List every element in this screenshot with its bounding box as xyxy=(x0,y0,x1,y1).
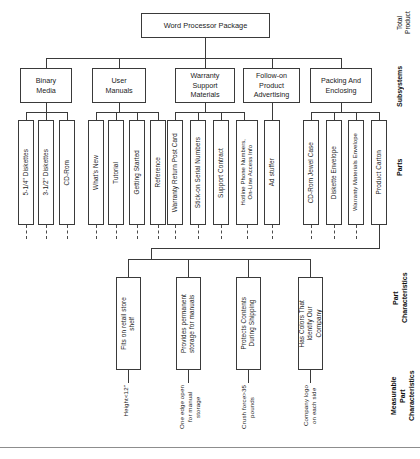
diagram-canvas: Word Processor Package Binary Media User… xyxy=(0,0,420,459)
part-label-7: Warranty Return Post Card xyxy=(171,133,179,212)
part-box-0[interactable]: 5-1/4" Diskettes xyxy=(18,120,34,225)
dash-stub-3 xyxy=(96,225,97,239)
part-label-4: Tutorial xyxy=(112,162,120,184)
part-box-14[interactable]: Warranty Materials Envelope xyxy=(348,120,364,225)
connector-pchar-drop-1 xyxy=(188,259,189,277)
part-label-11: Ad stuffer xyxy=(268,158,276,186)
dash-stub-12 xyxy=(311,225,312,239)
connector-mchar-drop-1 xyxy=(188,370,189,383)
part-box-4[interactable]: Tutorial xyxy=(108,120,124,225)
part-box-2[interactable]: CD-Rom xyxy=(59,120,75,225)
connector-g1-drop-3 xyxy=(158,112,159,120)
connector-pchar-bus xyxy=(128,259,310,260)
connector-g0-stem xyxy=(46,103,47,112)
dash-stub-0 xyxy=(26,225,27,239)
part-box-11[interactable]: Ad stuffer xyxy=(264,120,280,225)
part-characteristic-label-3: Has Colors That Identify Our Company xyxy=(298,300,323,348)
part-box-6[interactable]: Reference xyxy=(150,120,166,225)
connector-pchar-drop-2 xyxy=(248,259,249,277)
part-label-2: CD-Rom xyxy=(63,160,71,185)
part-box-13[interactable]: Diskette Envelope xyxy=(326,120,342,225)
part-box-3[interactable]: What's New xyxy=(88,120,104,225)
connector-g4-drop-2 xyxy=(356,112,357,120)
row-label-measurable-part-characteristics: Measurable Part Characteristics xyxy=(390,360,418,432)
subsystem-box-packing-and-enclosing[interactable]: Packing And Enclosing xyxy=(310,68,372,103)
measurable-characteristic-label-0: Height<12" xyxy=(122,385,130,417)
part-characteristic-box-0[interactable]: Fits on retail store shelf xyxy=(116,277,141,370)
dash-stub-6 xyxy=(158,225,159,239)
connector-g3-stem xyxy=(272,103,273,120)
connector-g2-drop-1 xyxy=(198,112,199,120)
part-box-10[interactable]: Hotline Phone Numbers, On-Line Access In… xyxy=(236,120,258,225)
measurable-characteristic-1: One edge open for manual storage xyxy=(178,385,200,441)
dash-stub-4 xyxy=(116,225,117,239)
part-characteristic-box-3[interactable]: Has Colors That Identify Our Company xyxy=(298,277,323,370)
subsystem-label-0: Binary Media xyxy=(36,76,56,95)
connector-mchar-drop-0 xyxy=(128,370,129,383)
connector-mchar-drop-3 xyxy=(310,370,311,383)
part-label-10: Hotline Phone Numbers, On-Line Access In… xyxy=(240,139,254,205)
dash-stub-14 xyxy=(356,225,357,239)
part-characteristic-box-2[interactable]: Protects Contents During Shipping xyxy=(236,277,261,370)
dash-stub-10 xyxy=(247,225,248,239)
row-label-subsystems: Subsystems xyxy=(396,62,412,110)
part-box-12[interactable]: CD-Rom Jewel Case xyxy=(303,120,319,225)
connector-carton-run xyxy=(151,248,380,249)
connector-g4-drop-1 xyxy=(334,112,335,120)
part-label-3: What's New xyxy=(92,155,100,190)
measurable-characteristic-0: Height<12" xyxy=(122,385,136,441)
part-box-1[interactable]: 3-1/2" Diskettes xyxy=(38,120,54,225)
part-box-7[interactable]: Warranty Return Post Card xyxy=(167,120,183,225)
connector-g1-bus xyxy=(96,112,158,113)
connector-subsystem-drop-3 xyxy=(272,58,273,68)
connector-g0-drop-0 xyxy=(26,112,27,120)
part-label-14: Warranty Materials Envelope xyxy=(352,133,359,211)
connector-g1-drop-0 xyxy=(96,112,97,120)
part-box-8[interactable]: Stick-on Serial Numbers xyxy=(190,120,206,225)
part-label-0: 5-1/4" Diskettes xyxy=(22,149,30,196)
connector-g0-drop-2 xyxy=(67,112,68,120)
part-characteristic-label-0: Fits on retail store shelf xyxy=(120,297,137,350)
measurable-characteristic-3: Company logo on each side xyxy=(302,385,320,441)
connector-g2-stem xyxy=(205,103,206,112)
subsystem-box-follow-on-product-advertising[interactable]: Follow-on Product Advertising xyxy=(243,68,300,103)
part-characteristic-label-2: Protects Contents During Shipping xyxy=(240,297,257,350)
connector-subsystem-drop-0 xyxy=(46,58,47,68)
dash-stub-11 xyxy=(272,225,273,239)
measurable-characteristic-label-2: Crush force>35 pounds xyxy=(240,385,256,429)
connector-g4-drop-3 xyxy=(379,112,380,120)
connector-subsystem-bus xyxy=(46,58,341,59)
root-box-label: Word Processor Package xyxy=(164,21,248,30)
part-box-9[interactable]: Support Contract xyxy=(213,120,229,225)
connector-g1-stem xyxy=(119,103,120,112)
connector-carton-stem xyxy=(379,225,380,248)
root-box-word-processor-package[interactable]: Word Processor Package xyxy=(141,13,270,38)
measurable-characteristic-label-1: One edge open for manual storage xyxy=(178,385,202,429)
dash-stub-7 xyxy=(175,225,176,239)
row-label-parts: Parts xyxy=(396,150,412,184)
connector-g1-drop-2 xyxy=(137,112,138,120)
part-label-5: Getting Started xyxy=(133,150,141,194)
connector-g4-stem xyxy=(341,103,342,112)
connector-g2-drop-0 xyxy=(175,112,176,120)
connector-root-stem xyxy=(205,38,206,58)
connector-subsystem-drop-2 xyxy=(205,58,206,68)
part-label-8: Stick-on Serial Numbers xyxy=(194,137,202,208)
part-label-13: Diskette Envelope xyxy=(330,146,338,199)
part-box-15[interactable]: Product Carton xyxy=(371,120,387,225)
connector-g1-drop-1 xyxy=(116,112,117,120)
dash-stub-8 xyxy=(198,225,199,239)
subsystem-box-warranty-support-materials[interactable]: Warranty Support Materials xyxy=(175,68,235,103)
subsystem-box-binary-media[interactable]: Binary Media xyxy=(20,68,72,103)
dash-stub-13 xyxy=(334,225,335,239)
part-box-5[interactable]: Getting Started xyxy=(129,120,145,225)
connector-pchar-drop-0 xyxy=(128,259,129,277)
connector-g2-drop-3 xyxy=(244,112,245,120)
part-characteristic-box-1[interactable]: Provides permanent storage for manuals xyxy=(176,277,201,370)
connector-g4-drop-0 xyxy=(311,112,312,120)
subsystem-label-1: User Manuals xyxy=(105,76,132,95)
dash-stub-5 xyxy=(137,225,138,239)
subsystem-box-user-manuals[interactable]: User Manuals xyxy=(92,68,146,103)
part-label-6: Reference xyxy=(154,157,162,187)
row-label-part-characteristics: Part Characteristics xyxy=(392,268,416,328)
